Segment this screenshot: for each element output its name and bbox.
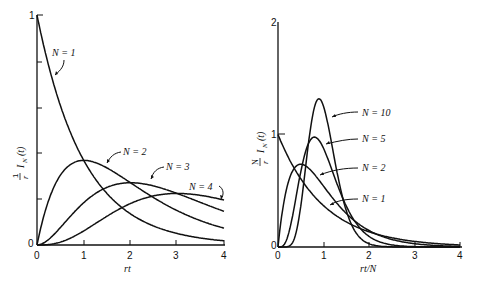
right-x-tick-0: 0 [275,250,281,261]
left-x-axis-title: rt [124,263,131,274]
left-x-tick-3: 3 [173,250,179,261]
left-x-tick-2: 2 [127,250,133,261]
left-x-tick-4: 4 [221,250,227,261]
left-label-n2: N = 2 [122,146,146,157]
right-label-n5: N = 5 [361,133,385,144]
right-y-tick-mid: 1 [271,129,277,140]
svg-text:N: N [251,159,260,165]
right-x-axis-title: rt/N [360,263,377,274]
left-y-tick-top: 1 [29,10,35,21]
svg-text:N: N [261,143,269,149]
right-x-tick-3: 3 [412,250,418,261]
arrowhead-icon [326,141,330,144]
svg-text:I: I [255,149,266,154]
left-y-axis-title: 1 r I N (t) [11,146,30,180]
right-label-n1: N = 1 [361,193,385,204]
curve-n2 [278,164,460,247]
svg-text:1: 1 [11,173,20,178]
right-label-n2: N = 2 [361,162,385,173]
arrowhead-icon [332,114,336,117]
right-arrow-n2 [320,168,358,175]
svg-text:N: N [21,158,29,164]
svg-text:I: I [15,164,26,169]
left-x-ticks [84,240,224,245]
right-x-tick-4: 4 [457,250,463,261]
svg-text:(t): (t) [15,146,27,156]
svg-text:r: r [261,160,270,164]
left-label-n1: N = 1 [51,47,75,58]
left-y-tick-zero: 0 [28,238,34,249]
figure: 1 0 0 1 2 3 4 rt 1 r I N (t) N = 1 N = 2… [0,0,485,282]
arrowhead-icon [330,202,334,205]
right-y-tick-top: 2 [271,17,277,28]
svg-text:(t): (t) [255,131,267,141]
right-x-tick-2: 2 [366,250,372,261]
right-x-tick-1: 1 [321,250,327,261]
right-chart: 2 1 0 0 1 2 3 4 rt/N N r I N (t) N = 10 … [251,17,463,274]
left-label-n4: N = 4 [188,181,212,192]
left-x-tick-1: 1 [81,250,87,261]
right-y-axis-title: N r I N (t) [251,131,270,166]
svg-text:r: r [21,175,30,179]
left-chart: 1 0 0 1 2 3 4 rt 1 r I N (t) N = 1 N = 2… [11,10,227,274]
left-label-n3: N = 3 [165,161,189,172]
left-y-ticks [37,15,43,199]
arrowhead-icon [320,172,324,175]
right-label-n10: N = 10 [361,107,390,118]
right-arrow-n10 [332,112,358,117]
left-x-tick-0: 0 [34,250,40,261]
